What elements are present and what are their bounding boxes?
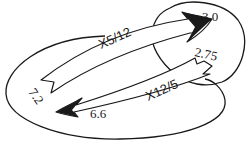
value-label-top-right: 3.0: [202, 9, 218, 24]
value-label-left: 7.2: [26, 85, 48, 107]
ratio-diagram: X5/12 X12/5 7.2 3.0 2.75 6.6: [0, 0, 249, 141]
value-label-bottom: 6.6: [90, 106, 107, 121]
value-label-inner-right: 2.75: [193, 44, 218, 63]
